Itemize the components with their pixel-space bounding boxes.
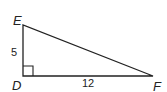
vertex-label-f: F [153,79,162,92]
vertex-label-e: E [13,13,22,28]
vertex-label-d: D [12,78,21,92]
side-label-df: 12 [82,77,94,89]
right-triangle-diagram: E D F 5 12 [0,0,167,92]
triangle-def [23,25,153,76]
side-label-de: 5 [11,46,17,58]
right-angle-marker [23,66,33,76]
